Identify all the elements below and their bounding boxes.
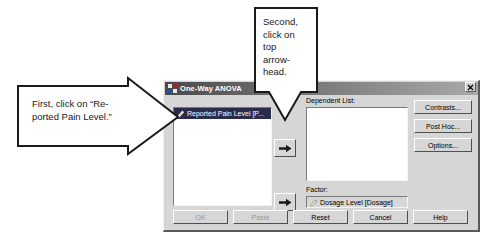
left-callout-arrow (16, 84, 184, 162)
contrasts-button[interactable]: Contrasts... (414, 100, 472, 114)
move-to-factor-arrow[interactable] (274, 193, 296, 211)
dialog-title: One-Way ANOVA (180, 82, 242, 95)
close-x-glyph (467, 84, 474, 91)
arrow-right-icon (279, 198, 292, 207)
reset-button[interactable]: Reset (293, 210, 348, 224)
options-button[interactable]: Options... (414, 138, 472, 152)
left-callout-text: First, click on “Re- ported Pain Level.” (32, 98, 136, 123)
factor-value: Dosage Level [Dosage] (320, 199, 393, 206)
close-icon[interactable] (465, 82, 476, 92)
top-callout-text: Second, click on top arrow- head. (263, 16, 315, 79)
screenshot-stage: One-Way ANOVA Reported Pain Level [P... … (0, 0, 489, 247)
help-button[interactable]: Help (413, 210, 468, 224)
ok-button[interactable]: OK (173, 210, 228, 224)
paste-button[interactable]: Paste (233, 210, 288, 224)
arrow-right-icon (279, 144, 292, 153)
dialog-button-row: OK Paste Reset Cancel Help (173, 210, 472, 225)
factor-label: Factor: (306, 186, 328, 193)
ruler-scale-icon (309, 198, 318, 207)
cancel-button[interactable]: Cancel (353, 210, 408, 224)
post-hoc-button[interactable]: Post Hoc... (414, 119, 472, 133)
move-to-dependent-list-arrow[interactable] (274, 139, 296, 157)
factor-field[interactable]: Dosage Level [Dosage] (306, 196, 408, 208)
